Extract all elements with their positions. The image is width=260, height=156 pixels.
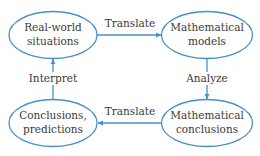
edge-translate-top: Translate bbox=[97, 17, 161, 35]
edge-label: Analyze bbox=[185, 72, 228, 84]
node-label-line2: conclusions bbox=[176, 123, 238, 135]
edge-translate-bottom: Translate bbox=[98, 105, 162, 123]
node-mathematical-models: Mathematical models bbox=[162, 12, 253, 59]
edge-label: Interpret bbox=[29, 72, 78, 84]
edge-label: Translate bbox=[105, 105, 156, 117]
node-label-line2: predictions bbox=[23, 123, 83, 135]
node-conclusions-predictions: Conclusions, predictions bbox=[9, 100, 97, 147]
node-label-line1: Real-world bbox=[24, 21, 82, 33]
modeling-cycle-diagram: Real-world situations Mathematical model… bbox=[0, 0, 260, 156]
node-label-line1: Conclusions, bbox=[19, 109, 87, 121]
node-label-line2: models bbox=[188, 35, 226, 47]
node-label-line1: Mathematical bbox=[170, 21, 244, 33]
node-mathematical-conclusions: Mathematical conclusions bbox=[162, 100, 253, 147]
node-label-line2: situations bbox=[27, 35, 79, 47]
node-label-line1: Mathematical bbox=[170, 109, 244, 121]
edge-interpret: Interpret bbox=[29, 59, 78, 100]
edge-label: Translate bbox=[105, 17, 156, 29]
node-real-world-situations: Real-world situations bbox=[9, 12, 97, 59]
edge-analyze: Analyze bbox=[185, 59, 228, 100]
